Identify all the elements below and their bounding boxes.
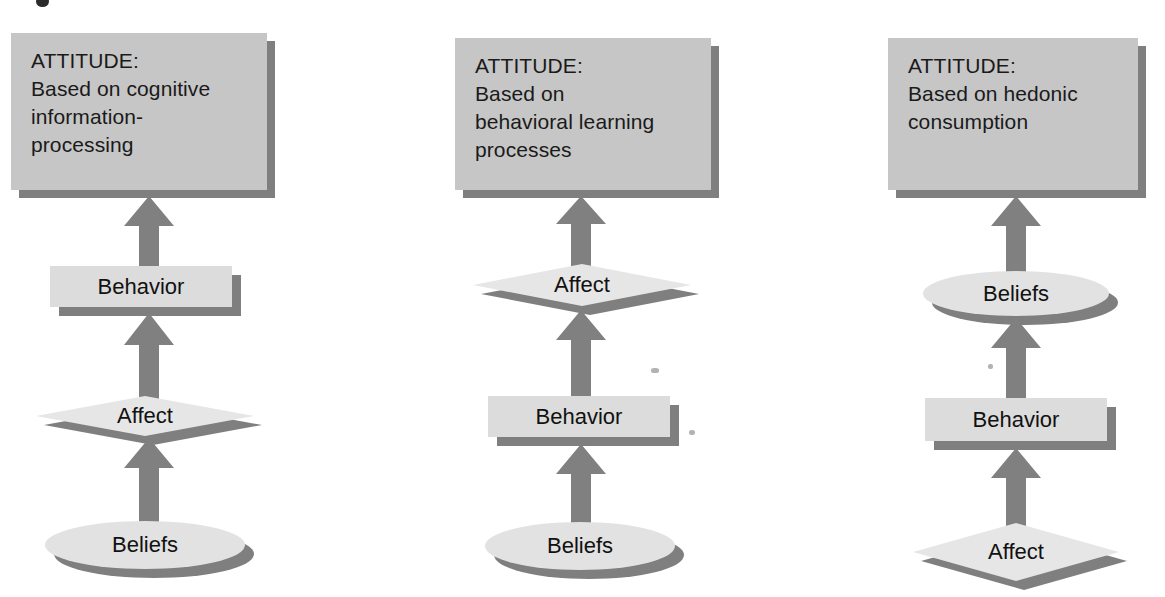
- node-affect-c1: Affect: [36, 396, 254, 436]
- node-label: Behavior: [536, 404, 623, 430]
- attitude-label: ATTITUDE: Based on cognitive information…: [31, 47, 267, 159]
- node-label: Behavior: [98, 274, 185, 300]
- node-label: Affect: [913, 523, 1119, 581]
- box-face: Behavior: [50, 266, 232, 307]
- ellipse-face: Beliefs: [485, 522, 675, 570]
- node-affect-c2: Affect: [473, 264, 691, 306]
- node-label: Affect: [473, 264, 691, 306]
- attitude-label: ATTITUDE: Based on hedonic consumption: [908, 52, 1138, 136]
- node-label: Beliefs: [983, 281, 1049, 307]
- attitude-label: ATTITUDE: Based on behavioral learning p…: [475, 52, 711, 164]
- node-beliefs-c3: Beliefs: [923, 271, 1109, 316]
- ellipse-face: Beliefs: [45, 521, 245, 569]
- box-face: ATTITUDE: Based on hedonic consumption: [888, 38, 1138, 190]
- scan-speck-d: [689, 430, 695, 435]
- ellipse-face: Beliefs: [923, 271, 1109, 316]
- node-label: Affect: [36, 396, 254, 436]
- attitude-box-standard-learning: ATTITUDE: Based on cognitive information…: [11, 33, 267, 190]
- node-behavior-c1: Behavior: [50, 266, 232, 307]
- box-face: ATTITUDE: Based on cognitive information…: [11, 33, 267, 190]
- attitude-box-experiential: ATTITUDE: Based on hedonic consumption: [888, 38, 1138, 190]
- box-face: Behavior: [488, 396, 670, 437]
- node-behavior-c2: Behavior: [488, 396, 670, 437]
- box-face: Behavior: [925, 398, 1107, 441]
- node-label: Behavior: [973, 407, 1060, 433]
- scan-artifact-top-left: [36, 0, 49, 7]
- node-behavior-c3: Behavior: [925, 398, 1107, 441]
- attitude-box-low-involvement: ATTITUDE: Based on behavioral learning p…: [455, 38, 711, 190]
- node-affect-c3: Affect: [913, 523, 1119, 581]
- scan-speck-c: [651, 368, 659, 373]
- node-label: Beliefs: [547, 533, 613, 559]
- up-block-arrow-icon: [556, 196, 606, 266]
- node-beliefs-c1: Beliefs: [45, 521, 245, 569]
- up-block-arrow-icon: [556, 310, 606, 398]
- diagram-canvas: ATTITUDE: Based on cognitive information…: [0, 0, 1165, 597]
- up-block-arrow-icon: [124, 196, 174, 274]
- box-face: ATTITUDE: Based on behavioral learning p…: [455, 38, 711, 190]
- up-block-arrow-icon: [991, 318, 1041, 402]
- up-block-arrow-icon: [991, 196, 1041, 278]
- node-label: Beliefs: [112, 532, 178, 558]
- node-beliefs-c2: Beliefs: [485, 522, 675, 570]
